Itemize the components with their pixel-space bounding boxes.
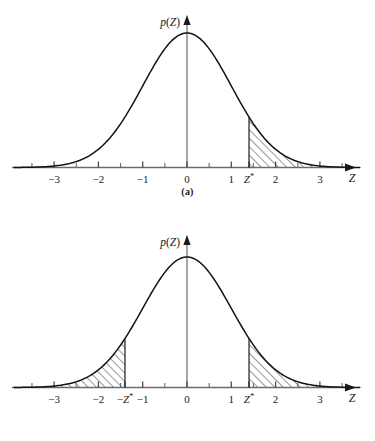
x-axis-tick-label: −2 — [93, 173, 105, 185]
x-axis-tick-label: Z* — [244, 171, 254, 185]
panel-a-caption: (a) — [0, 186, 375, 197]
normal-distribution-figure: −3−2−101Z*23 p(Z) Z (a) — [0, 0, 375, 441]
x-axis-tick-label: −1 — [137, 173, 149, 185]
y-axis-arrow-b — [183, 235, 190, 245]
x-axis-tick-labels-a: −3−2−101Z*23 — [48, 171, 323, 185]
y-axis-arrow-a — [183, 15, 190, 25]
x-axis-tick-label: −Z* — [117, 391, 134, 405]
x-axis-tick-label: 1 — [229, 393, 235, 405]
x-axis-tick-label: 1 — [229, 173, 235, 185]
x-axis-tick-label: 0 — [184, 393, 190, 405]
x-axis-tick-label: −1 — [137, 393, 149, 405]
x-axis-label-b: Z — [349, 391, 356, 405]
shaded-region-upper-tail-b — [249, 339, 360, 388]
x-axis-tick-label: 0 — [184, 173, 190, 185]
x-axis-tick-label: −3 — [48, 173, 60, 185]
x-axis-tick-label: 2 — [273, 173, 279, 185]
x-axis-tick-label: 2 — [273, 393, 279, 405]
x-axis-tick-label: 3 — [317, 173, 323, 185]
panel-a: −3−2−101Z*23 p(Z) Z (a) — [0, 0, 375, 215]
panel-b-plot: −3−2−Z*−101Z*23 p(Z) Z — [0, 215, 375, 441]
x-axis-tick-label: −2 — [93, 393, 105, 405]
x-axis-tick-label: 3 — [317, 393, 323, 405]
y-axis-label-a: p(Z) — [159, 16, 180, 29]
x-axis-tick-label: −3 — [48, 393, 60, 405]
shaded-region-upper-tail-a — [249, 117, 360, 167]
panel-a-plot: −3−2−101Z*23 p(Z) Z — [0, 0, 375, 215]
shaded-region-lower-tail-b — [14, 339, 125, 388]
x-axis-tick-label: Z* — [244, 391, 254, 405]
y-axis-label-b: p(Z) — [159, 236, 180, 249]
panel-b: −3−2−Z*−101Z*23 p(Z) Z (b) — [0, 215, 375, 441]
x-axis-tick-labels-b: −3−2−Z*−101Z*23 — [48, 391, 323, 405]
x-axis-label-a: Z — [349, 171, 356, 185]
